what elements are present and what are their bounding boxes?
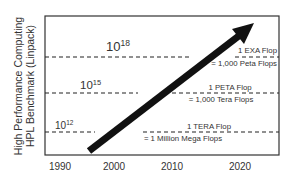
level-label-1e18: 1018 xyxy=(106,38,130,54)
level-label-1e12: 1012 xyxy=(55,119,74,131)
x-tick-2000: 2000 xyxy=(103,161,126,172)
x-axis-ticks: 1990 2000 2010 2020 xyxy=(49,161,252,172)
x-tick-1990: 1990 xyxy=(49,161,72,172)
x-tick-2010: 2010 xyxy=(161,161,184,172)
exa-name: 1 EXA Flop xyxy=(238,46,278,55)
y-axis-label: High Performance Computing HPL Benchmark… xyxy=(12,17,36,155)
y-axis-label-line1: High Performance Computing xyxy=(12,17,24,155)
peta-equiv: = 1,000 Tera Flops xyxy=(189,95,254,104)
peta-name: 1 PETA Flop xyxy=(208,83,252,92)
exa-equiv: = 1,000 Peta Flops xyxy=(211,59,277,68)
tera-equiv: = 1 Million Mega Flops xyxy=(144,134,222,143)
hpc-benchmark-chart: High Performance Computing HPL Benchmark… xyxy=(0,0,294,182)
x-tick-2020: 2020 xyxy=(229,161,252,172)
y-axis-label-line2: HPL Benchmark (Linpack) xyxy=(24,25,36,147)
tera-name: 1 TERA Flop xyxy=(187,122,232,131)
level-label-1e15: 1015 xyxy=(80,78,101,91)
